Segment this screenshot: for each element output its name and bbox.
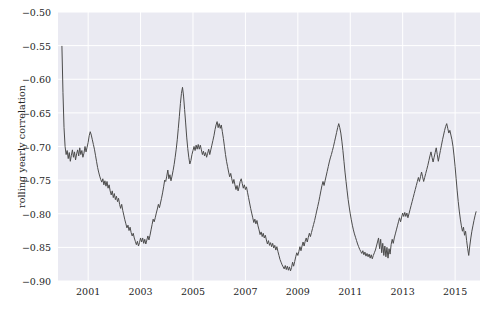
line-chart-svg [58,12,480,281]
x-tick-label: 2007 [215,286,275,297]
y-tick-label: −0.75 [6,175,51,186]
y-tick-label: −0.55 [6,40,51,51]
x-tick-label: 2005 [163,286,223,297]
x-tick-label: 2015 [425,286,485,297]
y-tick-label: −0.50 [6,7,51,18]
y-tick-label: −0.60 [6,74,51,85]
x-tick-label: 2003 [111,286,171,297]
x-tick-label: 2011 [320,286,380,297]
plot-area [58,12,480,281]
x-tick-label: 2001 [58,286,118,297]
data-series-line [62,46,476,271]
gridlines [58,12,480,281]
y-tick-label: −0.65 [6,107,51,118]
x-tick-label: 2009 [268,286,328,297]
y-tick-label: −0.90 [6,276,51,287]
y-tick-label: −0.85 [6,242,51,253]
y-tick-label: −0.80 [6,208,51,219]
y-tick-label: −0.70 [6,141,51,152]
x-tick-label: 2013 [373,286,433,297]
figure-canvas: rolling yearly correlation −0.50−0.55−0.… [0,0,491,309]
